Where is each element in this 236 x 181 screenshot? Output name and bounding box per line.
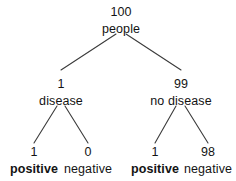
edge-root-to-no-disease: [126, 34, 181, 70]
node-disease-label: disease: [39, 95, 83, 108]
edge-disease-to-positive: [34, 106, 57, 143]
node-no-disease-count: 99: [150, 78, 211, 91]
node-root-count: 100: [102, 6, 140, 19]
node-disease-negative: 0 negative: [64, 146, 112, 175]
node-disease-positive: 1 positive: [10, 146, 58, 175]
node-root: 100 people: [102, 6, 140, 35]
node-disease-negative-label: negative: [64, 163, 112, 176]
node-no-disease-label: no disease: [150, 95, 211, 108]
node-disease-positive-label: positive: [10, 163, 58, 176]
edge-disease-to-negative: [65, 106, 88, 143]
node-disease-positive-count: 1: [10, 146, 58, 159]
node-disease: 1 disease: [39, 78, 83, 107]
probability-tree-diagram: 100 people 1 disease 99 no disease 1 pos…: [0, 0, 236, 181]
edge-root-to-disease: [61, 34, 116, 70]
node-no-disease-negative: 98 negative: [184, 146, 232, 175]
edge-no-disease-to-negative: [185, 106, 208, 143]
node-disease-negative-count: 0: [64, 146, 112, 159]
node-no-disease-positive-count: 1: [131, 146, 179, 159]
node-no-disease-negative-count: 98: [184, 146, 232, 159]
node-no-disease-positive: 1 positive: [131, 146, 179, 175]
node-no-disease: 99 no disease: [150, 78, 211, 107]
node-disease-count: 1: [39, 78, 83, 91]
node-no-disease-negative-label: negative: [184, 163, 232, 176]
node-no-disease-positive-label: positive: [131, 163, 179, 176]
edge-no-disease-to-positive: [155, 106, 176, 143]
node-root-label: people: [102, 23, 140, 36]
